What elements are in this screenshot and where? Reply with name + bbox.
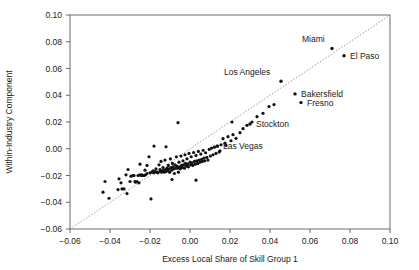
- data-point: [231, 133, 234, 136]
- data-point: [170, 178, 173, 181]
- data-point: [179, 155, 182, 158]
- data-point: [169, 157, 172, 160]
- data-point: [234, 137, 237, 140]
- data-point: [157, 163, 160, 166]
- y-tick-label: 0.00: [45, 144, 62, 154]
- data-point: [187, 152, 190, 155]
- x-tick-label: 0.00: [182, 236, 199, 246]
- data-point: [101, 191, 104, 194]
- data-point: [159, 160, 162, 163]
- x-tick-label: 0.10: [382, 236, 399, 246]
- data-point: [194, 154, 197, 157]
- data-point: [137, 181, 140, 184]
- chart-canvas: −0.06−0.04−0.020.000.020.040.060.080.10 …: [0, 0, 419, 270]
- data-point: [116, 188, 119, 191]
- data-point: [145, 164, 148, 167]
- data-point: [177, 161, 180, 164]
- data-point: [117, 177, 120, 180]
- data-point: [255, 115, 258, 118]
- data-point: [211, 153, 214, 156]
- data-point: [221, 137, 224, 140]
- data-point: [124, 173, 127, 176]
- data-point: [119, 181, 122, 184]
- data-point: [261, 112, 264, 115]
- annotated-data-point: [248, 122, 251, 125]
- data-point: [197, 150, 200, 153]
- y-axis-ticks: −0.06−0.04−0.020.000.020.040.060.080.10: [40, 10, 70, 234]
- x-axis-ticks: −0.06−0.04−0.020.000.020.040.060.080.10: [59, 229, 398, 246]
- city-label: Los Angeles: [224, 67, 270, 77]
- data-point: [164, 145, 167, 148]
- city-label: Stockton: [256, 119, 289, 129]
- data-point: [163, 159, 166, 162]
- annotated-data-point: [330, 47, 333, 50]
- data-point: [154, 167, 157, 170]
- data-point: [176, 121, 179, 124]
- data-point: [122, 187, 125, 190]
- data-point: [125, 192, 128, 195]
- data-point: [128, 180, 131, 183]
- y-tick-label: 0.02: [45, 117, 62, 127]
- data-point: [214, 152, 217, 155]
- y-tick-label: 0.08: [45, 37, 62, 47]
- y-tick-label: −0.04: [40, 197, 62, 207]
- data-point: [103, 180, 106, 183]
- annotated-data-point: [342, 54, 345, 57]
- data-point: [183, 153, 186, 156]
- y-tick-label: −0.02: [40, 171, 62, 181]
- data-point: [132, 174, 135, 177]
- annotated-data-point: [293, 92, 296, 95]
- data-point: [202, 149, 205, 152]
- data-point: [238, 131, 241, 134]
- annotated-data-point: [279, 80, 282, 83]
- data-point: [143, 169, 146, 172]
- data-point: [203, 159, 206, 162]
- data-point: [204, 151, 207, 154]
- data-point: [147, 155, 150, 158]
- data-point: [192, 151, 195, 154]
- data-point: [107, 197, 110, 200]
- y-axis-title: Within-Industry Component: [4, 70, 14, 174]
- data-point: [149, 197, 152, 200]
- annotated-data-point: [215, 144, 218, 147]
- y-tick-label: 0.06: [45, 64, 62, 74]
- data-point: [241, 127, 244, 130]
- y-tick-label: 0.10: [45, 10, 62, 20]
- annotated-data-point: [299, 101, 302, 104]
- x-tick-label: 0.08: [342, 236, 359, 246]
- city-label: Miami: [302, 34, 325, 44]
- data-point: [177, 171, 180, 174]
- x-tick-label: −0.06: [59, 236, 81, 246]
- data-point: [245, 124, 248, 127]
- data-point: [210, 146, 213, 149]
- reference-line-45deg: [70, 15, 390, 229]
- data-point: [185, 157, 188, 160]
- data-point: [145, 172, 148, 175]
- scatter-plot-figure: −0.06−0.04−0.020.000.020.040.060.080.10 …: [0, 0, 419, 270]
- data-point: [272, 103, 275, 106]
- x-tick-label: −0.02: [139, 236, 161, 246]
- x-tick-label: 0.02: [222, 236, 239, 246]
- y-tick-label: −0.06: [40, 224, 62, 234]
- city-label: El Paso: [350, 51, 380, 61]
- x-tick-label: 0.06: [302, 236, 319, 246]
- x-tick-label: 0.04: [262, 236, 279, 246]
- data-point: [175, 155, 178, 158]
- data-point: [167, 164, 170, 167]
- data-point: [181, 159, 184, 162]
- data-point: [199, 153, 202, 156]
- y-tick-label: 0.04: [45, 90, 62, 100]
- x-axis-title: Excess Local Share of Skill Group 1: [162, 254, 298, 264]
- data-point: [126, 168, 129, 171]
- data-point: [218, 149, 221, 152]
- city-label: Las Vegas: [223, 141, 263, 151]
- data-point: [206, 159, 209, 162]
- data-point: [267, 105, 270, 108]
- data-point: [190, 155, 193, 158]
- data-point: [194, 179, 197, 182]
- city-label: Fresno: [307, 98, 334, 108]
- x-tick-label: −0.04: [99, 236, 121, 246]
- data-point: [152, 144, 155, 147]
- data-point: [173, 172, 176, 175]
- data-point: [230, 120, 233, 123]
